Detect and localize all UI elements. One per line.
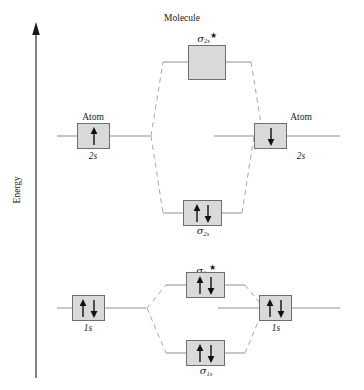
- sigma-2s-label: σ2s: [173, 226, 233, 237]
- diagram-title: Molecule: [0, 14, 364, 24]
- sigma-1s-label: σ1s: [176, 366, 236, 377]
- spin-down-arrow-icon: [207, 344, 215, 363]
- right-atom-label: Atom: [271, 113, 331, 123]
- orbital-box-left-1s[interactable]: [72, 295, 105, 321]
- electron-slot-group: [73, 296, 104, 320]
- electron-slot-group: [187, 273, 224, 297]
- sigma-glyph: σ: [197, 33, 204, 44]
- sigma-glyph: σ: [197, 225, 204, 236]
- electron-slot-group: [78, 124, 109, 148]
- orbital-box-left-2s[interactable]: [77, 123, 110, 149]
- spin-up-arrow-icon: [266, 299, 274, 318]
- right-1s-shell-label: 1s: [246, 324, 306, 334]
- antibonding-star-icon: ★: [210, 31, 217, 40]
- electron-slot-group: [260, 296, 291, 320]
- energy-axis-label: Energy: [13, 160, 23, 220]
- diagram-lines-layer: [0, 0, 364, 390]
- electron-slot-group: [187, 341, 224, 365]
- orbital-box-sigma-2s[interactable]: [183, 200, 222, 226]
- spin-up-arrow-icon: [196, 276, 204, 295]
- spin-up-arrow-icon: [79, 299, 87, 318]
- orbital-box-sigma-1s-star[interactable]: [186, 272, 225, 298]
- energy-axis: [32, 22, 40, 378]
- spin-down-arrow-icon: [267, 127, 275, 146]
- spin-up-arrow-icon: [196, 344, 204, 363]
- left-1s-shell-label: 1s: [58, 324, 118, 334]
- antibonding-star-icon: ★: [209, 263, 216, 272]
- sigma-subscript: 2s: [204, 230, 210, 237]
- orbital-box-right-2s[interactable]: [254, 123, 287, 149]
- mo-diagram-canvas: Molecule Energy Atom Atom 2s 2s 1s 1s σ2…: [0, 0, 364, 390]
- sigma-2s-star-label: σ2s★: [177, 32, 237, 45]
- sigma-subscript: 1s: [207, 370, 213, 377]
- electron-slot-group: [255, 124, 286, 148]
- spin-up-arrow-icon: [90, 127, 98, 146]
- right-2s-shell-label: 2s: [271, 152, 331, 162]
- spin-down-arrow-icon: [207, 276, 215, 295]
- orbital-box-sigma-1s[interactable]: [186, 340, 225, 366]
- sigma-glyph: σ: [200, 365, 207, 376]
- left-2s-shell-label: 2s: [63, 152, 123, 162]
- spin-down-arrow-icon: [204, 204, 212, 223]
- correlation-lines-2s: [151, 62, 263, 213]
- electron-slot-group: [184, 201, 221, 225]
- spin-up-arrow-icon: [193, 204, 201, 223]
- left-atom-label: Atom: [63, 113, 123, 123]
- electron-slot-group: [189, 46, 225, 79]
- orbital-box-sigma-2s-star[interactable]: [188, 45, 226, 80]
- orbital-box-right-1s[interactable]: [259, 295, 292, 321]
- spin-down-arrow-icon: [90, 299, 98, 318]
- spin-down-arrow-icon: [277, 299, 285, 318]
